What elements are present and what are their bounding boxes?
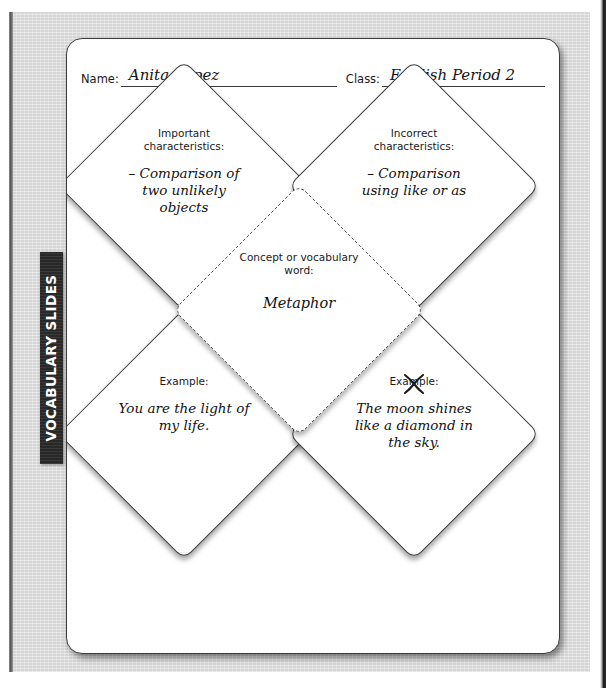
diamond-body: Metaphor xyxy=(263,295,335,312)
diamond-title: Concept or vocabulary word: xyxy=(239,251,359,277)
sidebar-tab-label: VOCABULARY SLIDES xyxy=(44,275,60,442)
name-field[interactable]: Anita Lopez xyxy=(121,65,337,87)
sidebar-tab-vocabulary-slides[interactable]: VOCABULARY SLIDES xyxy=(40,252,63,464)
diamond-title: Incorrect characteristics: xyxy=(354,127,474,153)
worksheet-screenshot: VOCABULARY SLIDES Name: Anita Lopez Clas… xyxy=(0,0,606,688)
diamond-body: You are the light of my life. xyxy=(118,400,250,434)
diamond-content: Concept or vocabulary word: Metaphor xyxy=(210,221,388,399)
graphic-organizer: Important characteristics: – Comparison … xyxy=(67,87,559,653)
class-field-label: Class: xyxy=(346,72,380,87)
name-field-label: Name: xyxy=(81,72,119,87)
diamond-concept-word[interactable]: Concept or vocabulary word: Metaphor xyxy=(210,221,388,399)
diamond-body: – Comparison of two unlikely objects xyxy=(118,165,250,216)
diamond-title-wrapper: Example: xyxy=(389,375,438,388)
left-binding-edge xyxy=(9,12,13,672)
diamond-title: Example: xyxy=(389,375,438,387)
worksheet-card: Name: Anita Lopez Class: English Period … xyxy=(66,38,560,654)
diamond-body: The moon shines like a diamond in the sk… xyxy=(348,400,480,451)
right-binding-edge xyxy=(600,0,606,688)
diamond-title: Important characteristics: xyxy=(124,127,244,153)
diamond-body: – Comparison using like or as xyxy=(348,165,480,199)
diamond-title: Example: xyxy=(159,375,208,388)
worksheet-header: Name: Anita Lopez Class: English Period … xyxy=(67,57,559,87)
